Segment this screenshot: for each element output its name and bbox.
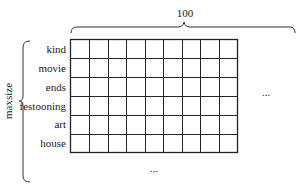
left-brace-label: maxsize <box>2 83 14 119</box>
row-label: movie <box>39 62 67 74</box>
embedding-matrix-diagram: 100 maxsize kind movie ends festooning a… <box>0 0 301 188</box>
bottom-ellipsis: ... <box>150 162 159 174</box>
row-label: art <box>54 118 66 130</box>
row-label: kind <box>46 43 66 55</box>
row-labels: kind movie ends festooning art house <box>20 43 67 149</box>
top-brace-label: 100 <box>177 7 194 19</box>
row-label: ends <box>46 81 66 93</box>
right-ellipsis: ... <box>262 86 271 98</box>
row-label: festooning <box>20 100 67 112</box>
row-label: house <box>40 137 66 149</box>
matrix-grid <box>71 40 238 153</box>
top-brace <box>71 22 295 33</box>
